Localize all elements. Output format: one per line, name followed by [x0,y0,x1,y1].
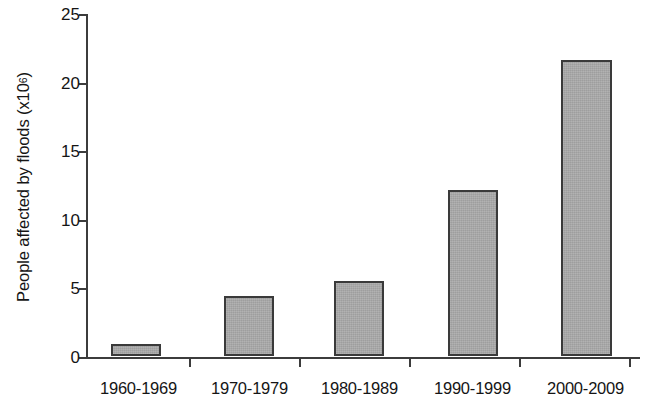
bar-1970-1979[interactable] [224,296,274,356]
x-axis-line [86,357,640,359]
bar-chart-figure: People affected by floods (x106) 0 5 10 … [0,0,649,407]
plot-area: 0 5 10 15 20 25 [86,14,640,358]
y-tick-label: 25 [61,6,80,23]
x-tick-mark-2 [299,359,301,367]
y-tick-label: 20 [61,74,80,91]
y-tick-mark [79,151,86,153]
bar-1990-1999[interactable] [448,190,498,356]
x-tick-mark-3 [409,359,411,367]
y-axis-title-suffix: ) [14,72,33,77]
x-label-1990-1999: 1990-1999 [420,380,525,397]
y-tick-label: 0 [71,349,80,366]
y-axis-line [86,14,88,359]
x-tick-mark-4 [519,359,521,367]
y-tick-mark [79,14,86,16]
y-axis-title: People affected by floods (x106) [10,2,36,372]
y-tick-mark [79,220,86,222]
y-tick-mark [79,288,86,290]
bar-1980-1989[interactable] [334,281,384,356]
x-label-1980-1989: 1980-1989 [307,380,412,397]
bar-1960-1969[interactable] [111,344,161,356]
y-tick-mark [79,83,86,85]
y-axis-title-text: People affected by floods (x10 [14,83,33,302]
bar-2000-2009[interactable] [561,60,612,356]
y-tick-label: 5 [71,280,80,297]
y-tick-label: 10 [61,211,80,228]
x-label-1970-1979: 1970-1979 [197,380,302,397]
x-label-2000-2009: 2000-2009 [533,380,638,397]
x-tick-mark-5 [629,359,631,367]
y-tick-label: 15 [61,143,80,160]
y-tick-mark [79,357,86,359]
x-label-1960-1969: 1960-1969 [86,380,191,397]
x-tick-mark-1 [189,359,191,367]
